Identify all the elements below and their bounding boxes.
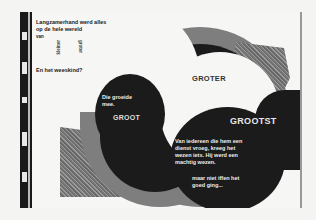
right-page-edge — [300, 12, 302, 208]
label-groter: GROTER — [192, 74, 226, 83]
curved-word-groter: groter — [78, 40, 83, 53]
book-spread: Langzamerhand werd alles op de hele were… — [20, 12, 302, 208]
intro-text: Langzamerhand werd alles op de hele were… — [36, 19, 106, 40]
label-groot: GROOT — [113, 114, 140, 121]
closing-text: maar niet iffen het goed ging... — [192, 175, 239, 189]
groeide-text: Die groeide mee. — [102, 94, 132, 108]
body-text: Van iedereen die hem een dienst vroeg, k… — [175, 138, 242, 166]
label-grootst: GROOTST — [230, 116, 277, 126]
question-text: En het weeskind? — [36, 67, 82, 74]
left-edge-strip — [20, 12, 32, 208]
curved-word-kleiner: kleiner — [56, 40, 61, 55]
